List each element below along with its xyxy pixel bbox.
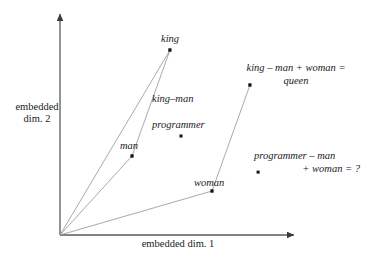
- y-axis-label: embeddeddim. 2: [6, 101, 68, 126]
- point-king: [168, 48, 171, 51]
- label-queen-equation: king – man + woman =queen: [240, 62, 352, 87]
- vector-woman-to-queen: [212, 85, 250, 191]
- label-queen-line2: queen: [283, 75, 308, 86]
- point-man: [130, 154, 133, 157]
- vector-origin-to-woman: [60, 191, 212, 235]
- label-programmer-eq-line2: + woman = ?: [254, 163, 364, 176]
- label-programmer-eq-line1: programmer – man: [254, 150, 335, 161]
- y-axis-label-line2: dim. 2: [24, 113, 51, 124]
- label-woman: woman: [194, 177, 224, 190]
- vector-origin-to-king: [60, 50, 170, 235]
- embedding-vector-figure: embeddeddim. 2 embedded dim. 1 king king…: [0, 0, 380, 260]
- label-king-minus-man: king–man: [152, 93, 193, 106]
- label-programmer-equation: programmer – man+ woman = ?: [254, 150, 364, 175]
- x-axis-label: embedded dim. 1: [118, 238, 238, 250]
- point-woman: [210, 189, 213, 192]
- point-programmer: [180, 135, 183, 138]
- label-man: man: [120, 140, 138, 153]
- label-queen-line1: king – man + woman =: [246, 62, 345, 73]
- y-axis-label-line1: embedded: [15, 101, 58, 112]
- vector-origin-to-man: [60, 156, 132, 235]
- label-king: king: [161, 33, 179, 46]
- label-programmer: programmer: [152, 119, 205, 132]
